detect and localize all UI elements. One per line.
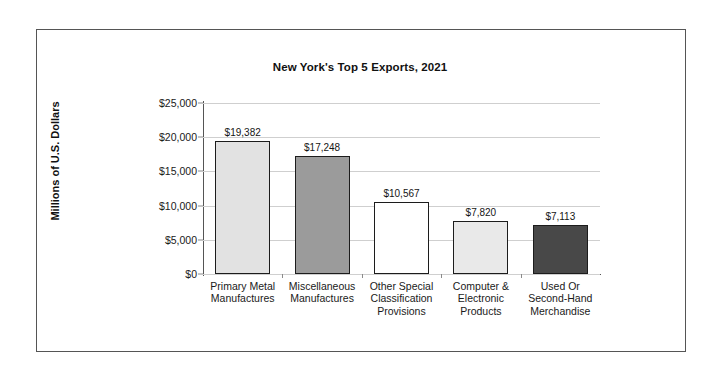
bar[interactable] <box>453 221 508 274</box>
y-axis-title: Millions of U.S. Dollars <box>49 61 61 261</box>
chart-page: New York's Top 5 Exports, 2021 Millions … <box>0 0 720 376</box>
chart-title: New York's Top 5 Exports, 2021 <box>0 61 720 73</box>
category-tick <box>362 274 363 278</box>
y-tick-label: $20,000 <box>77 131 197 143</box>
y-tick-label: $5,000 <box>77 234 197 246</box>
bar[interactable] <box>295 156 350 274</box>
y-tick-label: $10,000 <box>77 200 197 212</box>
bar-value-label: $7,113 <box>545 211 575 222</box>
y-tick-label: $15,000 <box>77 165 197 177</box>
category-tick <box>521 274 522 278</box>
category-label: Primary MetalManufactures <box>200 280 285 305</box>
gridline <box>203 274 600 275</box>
bar-value-label: $7,820 <box>466 207 497 218</box>
category-label: Used OrSecond-HandMerchandise <box>518 280 603 317</box>
category-tick <box>441 274 442 278</box>
bar-value-label: $19,382 <box>225 127 261 138</box>
gridline <box>203 103 600 104</box>
y-tick-label: $0 <box>77 268 197 280</box>
category-label: Computer &ElectronicProducts <box>438 280 523 317</box>
bar-value-label: $10,567 <box>383 188 419 199</box>
y-tick-label: $25,000 <box>77 97 197 109</box>
bar[interactable] <box>215 141 270 274</box>
category-label: Other SpecialClassificationProvisions <box>359 280 444 317</box>
gridline <box>203 137 600 138</box>
bar-value-label: $17,248 <box>304 142 340 153</box>
bar[interactable] <box>533 225 588 274</box>
category-label: MiscellaneousManufactures <box>279 280 364 305</box>
category-tick <box>282 274 283 278</box>
bar[interactable] <box>374 202 429 274</box>
